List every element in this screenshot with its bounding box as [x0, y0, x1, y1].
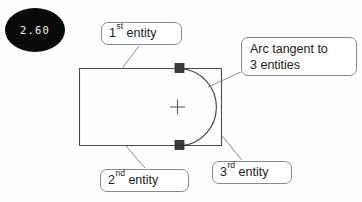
callout-second-entity[interactable]: 2ndentity	[100, 169, 189, 192]
callout-first-entity-text: 1stentity	[109, 26, 174, 41]
callout-second-suffix: nd	[115, 168, 124, 178]
callout-first-word: entity	[127, 26, 157, 40]
tangency-marker-top	[175, 64, 184, 73]
callout-third-entity-text: 3rdentity	[220, 165, 284, 180]
callout-second-ordinal: 2	[108, 173, 115, 187]
callout-arc-tangent-line-2: 3 entities	[250, 57, 348, 73]
callout-third-entity[interactable]: 3rdentity	[212, 161, 292, 184]
callout-first-entity[interactable]: 1stentity	[101, 22, 182, 45]
leader-arc-tangent	[208, 72, 241, 87]
callout-third-word: entity	[239, 165, 269, 179]
figure-number-badge: 2.60	[5, 8, 65, 52]
tangent-arc	[181, 69, 216, 146]
callout-arc-tangent[interactable]: Arc tangent to 3 entities	[241, 37, 357, 76]
figure-canvas: 2.60 1stentity Arc tangent to 3 entities…	[0, 0, 362, 202]
callout-arc-tangent-line-1: Arc tangent to	[250, 41, 348, 57]
leader-first-entity	[122, 46, 139, 69]
callout-second-entity-text: 2ndentity	[108, 173, 181, 188]
callout-second-word: entity	[128, 173, 158, 187]
tangency-marker-bottom	[175, 141, 184, 150]
callout-first-ordinal: 1	[109, 26, 116, 40]
leader-third-entity	[222, 136, 242, 160]
callout-third-suffix: rd	[227, 160, 235, 170]
leader-second-entity	[126, 146, 145, 168]
callout-first-suffix: st	[116, 21, 123, 31]
figure-number-label: 2.60	[20, 24, 50, 36]
callout-third-ordinal: 3	[220, 165, 227, 179]
